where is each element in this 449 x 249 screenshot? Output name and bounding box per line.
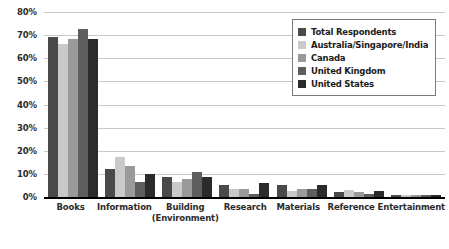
y-axis-tick-label: 80% bbox=[17, 7, 37, 17]
bar bbox=[259, 183, 269, 197]
x-axis-line bbox=[44, 197, 445, 199]
bar bbox=[219, 185, 229, 197]
bar-group bbox=[159, 12, 216, 197]
bar bbox=[125, 166, 135, 197]
bar-group bbox=[216, 12, 273, 197]
bar-group bbox=[44, 12, 101, 197]
legend-label: United States bbox=[311, 79, 374, 89]
bar bbox=[239, 189, 249, 197]
bar bbox=[344, 190, 354, 197]
y-axis-tick-label: 20% bbox=[17, 146, 37, 156]
legend-label: Total Respondents bbox=[311, 27, 396, 37]
bar bbox=[162, 177, 172, 197]
y-axis-tick-label: 40% bbox=[17, 100, 37, 110]
legend-swatch-icon bbox=[298, 41, 306, 49]
x-axis-tick-label: Research bbox=[219, 202, 272, 224]
chart-legend: Total RespondentsAustralia/Singapore/Ind… bbox=[292, 19, 436, 96]
legend-label: Canada bbox=[311, 53, 345, 63]
x-axis-labels: BooksInformationBuilding(Environment)Res… bbox=[44, 202, 445, 224]
x-axis-tick-label: Entertainment bbox=[378, 202, 445, 224]
bar bbox=[317, 185, 327, 197]
bar bbox=[182, 179, 192, 198]
bar-group bbox=[101, 12, 158, 197]
bar bbox=[229, 189, 239, 197]
legend-swatch-icon bbox=[298, 54, 306, 62]
y-axis-tick-label: 10% bbox=[17, 169, 37, 179]
bar bbox=[78, 29, 88, 197]
legend-label: United Kingdom bbox=[311, 66, 385, 76]
legend-item: Total Respondents bbox=[298, 25, 428, 38]
bar bbox=[88, 39, 98, 197]
x-axis-tick-label: Building(Environment) bbox=[152, 202, 219, 224]
bar bbox=[307, 189, 317, 197]
x-axis-tick-label: Materials bbox=[272, 202, 325, 224]
bar bbox=[105, 169, 115, 197]
bar bbox=[192, 172, 202, 197]
bar bbox=[145, 174, 155, 197]
bar bbox=[58, 44, 68, 197]
legend-item: United States bbox=[298, 77, 428, 90]
legend-swatch-icon bbox=[298, 80, 306, 88]
y-axis-tick-label: 30% bbox=[17, 123, 37, 133]
legend-label: Australia/Singapore/India bbox=[311, 40, 428, 50]
bar bbox=[115, 157, 125, 197]
legend-item: Canada bbox=[298, 51, 428, 64]
bar bbox=[172, 182, 182, 197]
bar bbox=[48, 37, 58, 197]
bar-chart: 0%10%20%30%40%50%60%70%80% BooksInformat… bbox=[0, 0, 449, 249]
bar bbox=[202, 177, 212, 197]
x-axis-tick-label: Information bbox=[97, 202, 152, 224]
bar bbox=[277, 185, 287, 197]
legend-swatch-icon bbox=[298, 28, 306, 36]
legend-swatch-icon bbox=[298, 67, 306, 75]
legend-item: Australia/Singapore/India bbox=[298, 38, 428, 51]
legend-item: United Kingdom bbox=[298, 64, 428, 77]
bar bbox=[297, 189, 307, 197]
y-axis-tick-label: 70% bbox=[17, 30, 37, 40]
x-axis-tick-label: Reference bbox=[325, 202, 378, 224]
y-axis-tick-label: 0% bbox=[23, 192, 37, 202]
y-axis-tick-label: 50% bbox=[17, 76, 37, 86]
y-axis-tick-label: 60% bbox=[17, 53, 37, 63]
bar bbox=[135, 182, 145, 197]
bar bbox=[68, 39, 78, 197]
x-axis-tick-label: Books bbox=[44, 202, 97, 224]
